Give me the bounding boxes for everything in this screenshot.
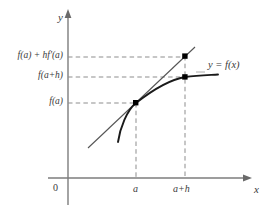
x-axis-arrowhead [243, 175, 252, 182]
y-tick-label-f-a: f(a) [0, 97, 63, 107]
tangent-line-figure: y x 0 f(a) + hf'(a) f(a+h) f(a) a a+h y … [0, 0, 280, 219]
x-axis-label: x [254, 184, 259, 195]
function-curve [118, 75, 218, 143]
point-linear-approx [182, 53, 187, 58]
axes-group [48, 9, 252, 205]
figure-canvas [0, 0, 280, 219]
x-tick-label-a: a [133, 184, 138, 194]
y-axis-label: y [58, 12, 63, 23]
y-tick-label-f-a-plus-h: f(a+h) [0, 71, 63, 81]
point-f-a-plus-h [182, 74, 187, 79]
y-axis-arrowhead [65, 9, 72, 18]
x-tick-label-a-plus-h: a+h [173, 184, 190, 194]
curve-equation-label: y = f(x) [208, 60, 240, 71]
point-f-a [133, 100, 138, 105]
tangent-line [88, 47, 195, 148]
y-tick-label-linear-approx: f(a) + hf'(a) [0, 51, 63, 61]
origin-label: 0 [53, 183, 58, 193]
